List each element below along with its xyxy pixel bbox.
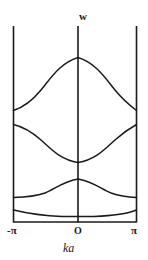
band-diagram-figure: w -π O π ka [0,0,148,260]
x-tick-label-pi: π [131,225,137,236]
band-curve-2 [14,179,137,198]
band-curve-3 [14,125,137,163]
band-curve-1-acoustic [14,210,137,217]
y-axis-label: w [79,11,87,22]
band-curve-4-upper [14,58,137,111]
x-tick-label-zero: O [74,226,82,236]
x-axis-label: ka [63,242,74,254]
dispersion-plot [0,0,148,260]
x-tick-label-minus-pi: -π [7,225,17,236]
